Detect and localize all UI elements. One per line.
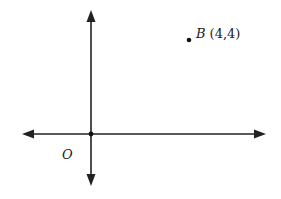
y-axis — [87, 10, 96, 186]
x-axis — [22, 130, 266, 139]
x-axis-left-arrow-icon — [22, 130, 34, 139]
x-axis-right-arrow-icon — [254, 130, 266, 139]
origin-label: O — [62, 147, 73, 162]
coordinate-plane: B(4,4) O — [0, 0, 281, 199]
origin-dot — [89, 132, 94, 137]
point-b-dot — [187, 38, 192, 43]
y-axis-up-arrow-icon — [87, 10, 96, 22]
point-b-label: B(4,4) — [195, 26, 240, 41]
y-axis-down-arrow-icon — [87, 174, 96, 186]
